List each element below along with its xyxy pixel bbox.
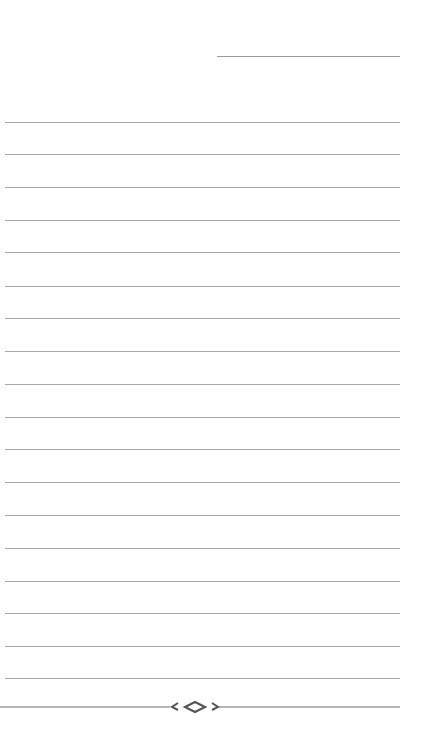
- footer-ornament: [0, 699, 425, 715]
- ruled-line: [5, 548, 400, 549]
- ruled-line: [5, 482, 400, 483]
- ruled-line: [5, 286, 400, 287]
- ruled-line: [5, 351, 400, 352]
- ruled-line: [5, 646, 400, 647]
- ruled-line: [5, 252, 400, 253]
- ruled-line: [5, 318, 400, 319]
- ruled-line: [5, 678, 400, 679]
- header-rule: [217, 56, 400, 57]
- ruled-line: [5, 417, 400, 418]
- lined-page: [0, 0, 425, 741]
- ruled-line: [5, 449, 400, 450]
- ruled-line: [5, 187, 400, 188]
- ruled-line: [5, 122, 400, 123]
- diamond-flourish-icon: [0, 699, 425, 715]
- ruled-line: [5, 613, 400, 614]
- ruled-line: [5, 515, 400, 516]
- ruled-line: [5, 384, 400, 385]
- ruled-line: [5, 220, 400, 221]
- ruled-line: [5, 581, 400, 582]
- ruled-line: [5, 154, 400, 155]
